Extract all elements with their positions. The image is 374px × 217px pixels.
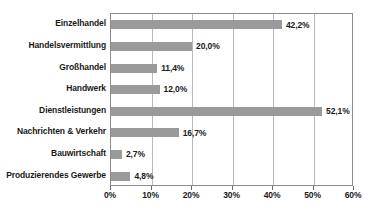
category-label: Dienstleistungen <box>0 106 106 115</box>
x-tick-label: 10% <box>142 191 159 200</box>
bar-band: 16,7% <box>111 122 352 144</box>
bar-band: 4,8% <box>111 165 352 187</box>
category-label: Bauwirtschaft <box>0 149 106 158</box>
x-tick-label: 60% <box>345 191 362 200</box>
bar-value-label: 12,0% <box>164 85 188 94</box>
category-label: Großhandel <box>0 63 106 72</box>
bar <box>111 150 122 159</box>
bar-value-label: 4,8% <box>134 172 153 181</box>
bar <box>111 64 157 73</box>
bar-band: 20,0% <box>111 36 352 58</box>
bar-chart: 42,2%20,0%11,4%12,0%52,1%16,7%2,7%4,8% E… <box>0 0 374 217</box>
category-label: Nachrichten & Verkehr <box>0 127 106 136</box>
bar-value-label: 2,7% <box>126 150 145 159</box>
category-label: Produzierendes Gewerbe <box>0 171 106 180</box>
bar-value-label: 20,0% <box>196 42 220 51</box>
x-tick-label: 0% <box>104 191 116 200</box>
x-tick-label: 40% <box>264 191 281 200</box>
x-tick-label: 50% <box>304 191 321 200</box>
bar-band: 11,4% <box>111 57 352 79</box>
category-label: Handwerk <box>0 84 106 93</box>
bar-band: 2,7% <box>111 144 352 166</box>
bar <box>111 172 130 181</box>
x-tick-label: 30% <box>223 191 240 200</box>
bar <box>111 42 192 51</box>
bar-band: 42,2% <box>111 14 352 36</box>
bar <box>111 128 179 137</box>
bar-value-label: 11,4% <box>161 64 184 73</box>
category-label: Handelsvermittlung <box>0 41 106 50</box>
x-tick-label: 20% <box>183 191 200 200</box>
bar <box>111 107 322 116</box>
bar-band: 52,1% <box>111 101 352 123</box>
bar-series: 42,2%20,0%11,4%12,0%52,1%16,7%2,7%4,8% <box>111 14 352 185</box>
bar-value-label: 16,7% <box>183 129 207 138</box>
bar-band: 12,0% <box>111 79 352 101</box>
bar <box>111 20 282 29</box>
bar-value-label: 42,2% <box>286 21 310 30</box>
category-axis-labels: EinzelhandelHandelsvermittlungGroßhandel… <box>0 13 106 186</box>
plot-area: 42,2%20,0%11,4%12,0%52,1%16,7%2,7%4,8% <box>110 13 353 186</box>
bar <box>111 85 160 94</box>
category-label: Einzelhandel <box>0 19 106 28</box>
bar-value-label: 52,1% <box>326 107 350 116</box>
